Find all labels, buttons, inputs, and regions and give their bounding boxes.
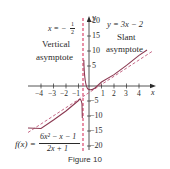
vertical-asymptote-eq-den: 2 — [71, 29, 74, 35]
vertical-asymptote-label-line2: asymptote — [36, 53, 73, 62]
x-tick-label: −3 — [48, 90, 56, 98]
x-tick-label: 1 — [101, 90, 105, 98]
figure-graph: y x −4 −3 −2 −1 1 2 3 4 20 15 10 5 −5 −1… — [0, 0, 170, 169]
y-tick-label: 10 — [92, 47, 100, 55]
y-tick-label: 15 — [92, 32, 100, 40]
slant-asymptote-label-line2: asymptote — [106, 45, 143, 54]
x-tick-label: −2 — [60, 90, 68, 98]
vertical-asymptote-label-line1: Vertical — [42, 40, 70, 49]
function-numerator: 6x² − x − 1 — [40, 133, 76, 141]
figure-caption: Figure 10 — [0, 155, 170, 164]
slant-asymptote-equation: y = 3x − 2 — [107, 20, 143, 29]
y-tick-label: −5 — [90, 97, 99, 105]
function-lhs: f(x) = — [15, 140, 36, 149]
x-tick-label: 4 — [137, 90, 141, 98]
x-tick-label: −4 — [35, 90, 43, 98]
y-tick-label: −20 — [90, 142, 103, 150]
y-tick-label: 5 — [92, 62, 96, 70]
function-denominator: 2x + 1 — [47, 145, 68, 153]
x-tick-label: −1 — [72, 90, 80, 98]
y-tick-label: −10 — [90, 112, 103, 120]
y-tick-label: −15 — [90, 127, 103, 135]
slant-asymptote-label-line1: Slant — [117, 33, 136, 42]
x-axis-label: x — [151, 89, 155, 97]
vertical-asymptote-eq-lhs: x = − — [48, 25, 66, 33]
slant-asymptote-line — [28, 52, 152, 133]
x-tick-label: 3 — [124, 90, 128, 98]
x-tick-label: 2 — [112, 90, 116, 98]
vertical-asymptote-eq-num: 1 — [71, 21, 74, 27]
y-tick-label: 20 — [92, 17, 100, 25]
curve-left-branch — [28, 99, 82, 128]
